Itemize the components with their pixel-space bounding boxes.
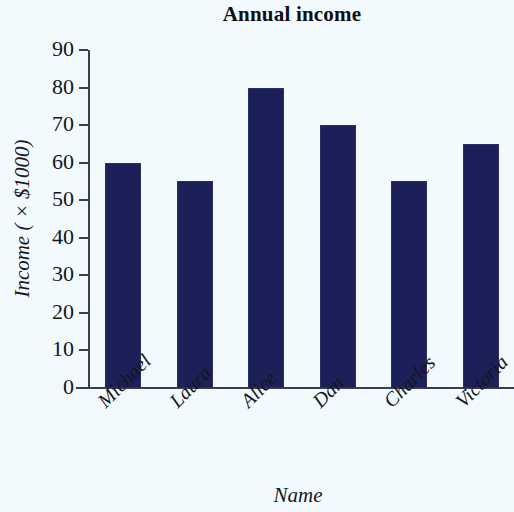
bar [320, 125, 356, 388]
y-axis-tick [79, 49, 88, 51]
y-axis-tick-label: 40 [28, 226, 74, 248]
bar [177, 181, 213, 388]
y-axis-tick-label: 80 [28, 76, 74, 98]
y-axis-tick [79, 312, 88, 314]
y-axis-tick [79, 124, 88, 126]
y-axis-tick-label: 50 [28, 188, 74, 210]
y-axis-title: Income ( × $1000) [10, 109, 35, 329]
x-axis-title: Name [88, 483, 508, 508]
bar [248, 88, 284, 388]
y-axis-tick-label: 0 [28, 376, 74, 398]
bar [463, 144, 499, 388]
bar-chart: Annual income Income ( × $1000) 90807060… [0, 0, 514, 512]
y-axis-tick-label: 20 [28, 301, 74, 323]
y-axis-tick [79, 87, 88, 89]
y-axis-tick [79, 199, 88, 201]
y-axis-tick-label: 30 [28, 263, 74, 285]
y-axis-tick [79, 162, 88, 164]
chart-title: Annual income [0, 2, 514, 27]
y-axis-tick-label: 90 [28, 38, 74, 60]
y-axis-tick-label: 60 [28, 151, 74, 173]
plot-area [88, 50, 514, 388]
y-axis-tick [79, 387, 88, 389]
y-axis-tick-label: 10 [28, 338, 74, 360]
y-axis-tick [79, 349, 88, 351]
y-axis-tick-label: 70 [28, 113, 74, 135]
y-axis-tick [79, 274, 88, 276]
y-axis-tick [79, 237, 88, 239]
